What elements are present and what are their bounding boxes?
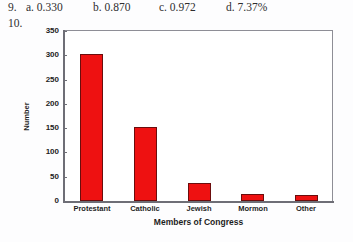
x-tick-label: Catholic: [118, 204, 172, 213]
y-tick-mark: [63, 201, 67, 202]
answer-option-b: b. 0.870: [93, 1, 130, 13]
y-tick-mark: [63, 152, 67, 153]
y-axis-tick-labels: 050100150200250300350: [36, 26, 59, 206]
answer-option-d: d. 7.37%: [226, 1, 267, 13]
y-tick-label: 0: [55, 196, 59, 206]
y-tick-mark: [63, 104, 67, 105]
bar-chart: 050100150200250300350 Number ProtestantC…: [0, 26, 353, 242]
bar-other: [295, 195, 318, 201]
y-tick-mark: [63, 128, 67, 129]
y-tick-label: 250: [46, 75, 59, 85]
answer-key-line: 9. a. 0.330 b. 0.870 c. 0.972 d. 7.37%: [0, 0, 353, 16]
x-axis-tick-labels: ProtestantCatholicJewishMormonOther: [63, 204, 334, 218]
y-tick-mark: [63, 55, 67, 56]
y-tick-label: 200: [46, 99, 59, 109]
x-tick-label: Jewish: [172, 204, 226, 213]
y-tick-label: 350: [46, 26, 59, 36]
y-tick-label: 300: [46, 50, 59, 60]
y-axis-title: Number: [22, 87, 31, 147]
x-tick-label: Protestant: [65, 204, 119, 213]
x-axis-line: [63, 201, 334, 203]
bar-series: [65, 31, 333, 201]
x-axis-title: Members of Congress: [63, 217, 334, 227]
y-tick-mark: [63, 80, 67, 81]
y-tick-mark: [63, 177, 67, 178]
x-tick-label: Mormon: [226, 204, 280, 213]
bar-jewish: [188, 183, 211, 201]
bar-catholic: [134, 127, 157, 201]
y-tick-label: 100: [46, 147, 59, 157]
answer-option-a: a. 0.330: [26, 1, 63, 13]
x-tick-label: Other: [279, 204, 333, 213]
question-number-9: 9.: [8, 1, 17, 13]
y-tick-mark: [63, 31, 67, 32]
answer-option-c: c. 0.972: [159, 1, 196, 13]
bar-protestant: [80, 54, 103, 201]
y-tick-label: 50: [50, 172, 59, 182]
y-tick-label: 150: [46, 123, 59, 133]
bar-mormon: [241, 194, 264, 201]
